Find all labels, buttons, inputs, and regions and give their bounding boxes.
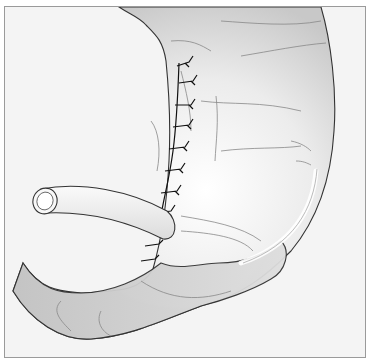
illustration-frame [4,6,366,358]
stomach-illustration [5,7,365,357]
drainage-tube [29,185,175,239]
